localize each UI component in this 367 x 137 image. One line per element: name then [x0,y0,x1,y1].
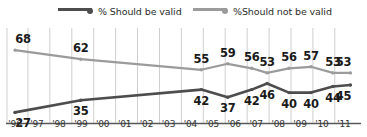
legend-item-should-not-be-valid[interactable]: %Should not be valid [193,3,332,19]
x-tick-label: '96 [8,119,21,129]
data-point-label: 59 [220,46,235,60]
data-point-label: 42 [194,94,209,108]
data-point-label: 56 [281,50,296,64]
x-tick-label: '97 [30,119,43,129]
data-point-marker [331,71,334,74]
data-point-marker [349,71,352,74]
data-point-marker [13,111,16,114]
data-point-marker [79,58,82,61]
series-lines [13,48,352,114]
legend-line-with-dot-marker-1 [193,8,227,14]
data-point-label: 62 [73,41,88,55]
x-tick-label: '08 [271,119,284,129]
legend-item-label: %Should not be valid [233,6,332,17]
line-chart: % Should be valid %Should not be valid 2… [0,0,367,137]
data-point-label: 53 [259,55,274,69]
x-tick-label: '04 [184,119,197,129]
x-tick-label: '05 [206,119,219,129]
data-point-marker [226,62,229,65]
data-point-marker [287,67,290,70]
chart-legend: % Should be valid %Should not be valid [0,0,367,22]
data-point-marker [265,71,268,74]
data-point-marker [265,82,268,85]
data-point-label: 55 [194,52,209,66]
data-point-marker [349,83,352,86]
data-point-label: 40 [281,97,296,111]
legend-line-with-dot-marker-0 [58,8,92,14]
data-point-label: 56 [244,50,259,64]
x-tick-label: '02 [140,119,153,129]
data-point-label: 46 [259,88,274,102]
data-point-marker [13,48,16,51]
legend-item-label: % Should be valid [98,6,182,17]
data-point-marker [79,99,82,102]
x-tick-label: '98 [52,119,65,129]
x-tick-label: '03 [162,119,175,129]
data-point-label: 53 [336,55,351,69]
data-point-label: 57 [303,49,318,63]
data-point-label: 42 [244,94,259,108]
data-point-marker [309,65,312,68]
x-tick-label: '01 [118,119,131,129]
data-point-label: 68 [15,32,30,46]
legend-item-should-be-valid[interactable]: % Should be valid [58,3,182,19]
x-tick-label: '06 [228,119,241,129]
x-axis-tick-labels: '96'97'98'99'00'01'02'03'04'05'06'07'08'… [0,119,367,137]
data-point-marker [250,88,253,91]
data-point-marker [287,91,290,94]
x-tick-label: '09 [293,119,306,129]
x-tick-label: '07 [250,119,263,129]
x-tick-label: '10 [315,119,328,129]
series-line [15,84,350,113]
data-point-label: 40 [303,97,318,111]
data-point-label: 35 [73,104,88,118]
data-point-marker [309,91,312,94]
data-point-marker [226,96,229,99]
data-point-marker [250,67,253,70]
data-point-marker [331,85,334,88]
x-tick-label: '99 [74,119,87,129]
data-point-marker [200,68,203,71]
data-point-marker [200,88,203,91]
x-tick-label: '11 [337,119,350,129]
series-line [15,50,350,73]
data-point-label: 37 [220,101,235,115]
data-point-label: 45 [336,89,351,103]
x-tick-label: '00 [96,119,109,129]
